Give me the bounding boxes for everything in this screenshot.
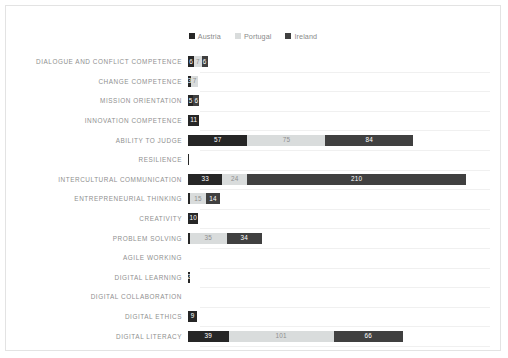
chart-frame: AustriaPortugalIreland DIALOGUE AND CONF… — [5, 5, 501, 351]
bar-value-label: 39 — [205, 333, 213, 339]
bar-segment-portugal[interactable]: 7 — [191, 76, 198, 87]
bar-value-label: 15 — [194, 196, 202, 202]
bar-cell: 3534 — [188, 228, 490, 248]
stacked-bar[interactable]: 3910166 — [188, 331, 490, 342]
bar-segment-austria[interactable] — [188, 154, 189, 165]
bar-cell: 577584 — [188, 130, 490, 150]
bar-cell — [188, 248, 490, 268]
stacked-bar[interactable]: 2 — [188, 272, 490, 283]
bar-segment-portugal[interactable]: 15 — [190, 193, 206, 204]
gridline — [200, 346, 490, 347]
category-label: DIGITAL LITERACY — [18, 333, 188, 340]
legend-item-austria[interactable]: Austria — [189, 32, 221, 41]
bar-cell: 10 — [188, 209, 490, 229]
bar-value-label: 9 — [191, 313, 195, 319]
chart-row: DIGITAL LITERACY3910166 — [18, 326, 490, 346]
bar-segment-ireland[interactable]: 6 — [202, 56, 208, 67]
stacked-bar[interactable]: 56 — [188, 95, 490, 106]
bar-cell — [188, 287, 490, 307]
category-label: DIGITAL ETHICS — [18, 313, 188, 320]
bar-value-label: 66 — [364, 333, 372, 339]
bar-cell: 3910166 — [188, 326, 490, 346]
bar-segment-austria[interactable]: 9 — [188, 311, 197, 322]
chart-row: INNOVATION COMPETENCE11 — [18, 111, 490, 131]
category-label: AGILE WORKING — [18, 254, 188, 261]
bar-segment-ireland[interactable]: 34 — [227, 233, 262, 244]
bar-value-label: 6 — [189, 59, 193, 65]
chart-row: DIGITAL ETHICS9 — [18, 307, 490, 327]
bar-value-label: 33 — [201, 176, 209, 182]
bar-segment-austria[interactable]: 33 — [188, 174, 222, 185]
stacked-bar[interactable]: 676 — [188, 56, 490, 67]
chart-rows: DIALOGUE AND CONFLICT COMPETENCE676CHANG… — [18, 52, 490, 346]
chart-row: RESILIENCE — [18, 150, 490, 170]
bar-cell: 1514 — [188, 189, 490, 209]
chart-row: MISSION ORIENTATION56 — [18, 91, 490, 111]
bar-cell — [188, 150, 490, 170]
bar-segment-ireland[interactable]: 210 — [247, 174, 466, 185]
bar-segment-portugal[interactable]: 35 — [190, 233, 226, 244]
bar-segment-ireland[interactable]: 6 — [193, 95, 199, 106]
bar-value-label: 210 — [351, 176, 362, 182]
bar-cell: 676 — [188, 52, 490, 72]
chart-row: ABILITY TO JUDGE577584 — [18, 130, 490, 150]
legend-swatch-icon — [189, 33, 195, 39]
bar-cell: 2 — [188, 268, 490, 288]
chart-row: DIALOGUE AND CONFLICT COMPETENCE676 — [18, 52, 490, 72]
stacked-bar[interactable] — [188, 154, 490, 165]
stacked-bar[interactable]: 577584 — [188, 135, 490, 146]
bar-value-label: 24 — [231, 176, 239, 182]
bar-segment-austria[interactable]: 2 — [188, 272, 190, 283]
chart-plot-area: DIALOGUE AND CONFLICT COMPETENCE676CHANG… — [18, 52, 490, 346]
bar-value-label: 35 — [205, 235, 213, 241]
category-label: CREATIVITY — [18, 215, 188, 222]
stacked-bar[interactable]: 1514 — [188, 193, 490, 204]
stacked-bar[interactable]: 3534 — [188, 233, 490, 244]
bar-segment-portugal[interactable]: 24 — [222, 174, 247, 185]
bar-value-label: 6 — [203, 59, 207, 65]
category-label: DIALOGUE AND CONFLICT COMPETENCE — [18, 58, 188, 65]
chart-row: ENTREPRENEURIAL THINKING1514 — [18, 189, 490, 209]
chart-row: AGILE WORKING — [18, 248, 490, 268]
category-label: DIGITAL LEARNING — [18, 274, 188, 281]
stacked-bar[interactable]: 10 — [188, 213, 490, 224]
bar-value-label: 14 — [209, 196, 217, 202]
bar-segment-portugal[interactable]: 101 — [229, 331, 334, 342]
bar-segment-austria[interactable]: 39 — [188, 331, 229, 342]
bar-cell: 3324210 — [188, 170, 490, 190]
stacked-bar[interactable] — [188, 291, 490, 302]
bar-value-label: 6 — [194, 98, 198, 104]
chart-row: DIGITAL LEARNING2 — [18, 268, 490, 288]
bar-segment-austria[interactable]: 11 — [188, 115, 199, 126]
legend-item-portugal[interactable]: Portugal — [235, 32, 272, 41]
stacked-bar[interactable]: 3324210 — [188, 174, 490, 185]
bar-segment-portugal[interactable]: 75 — [247, 135, 325, 146]
legend-item-label: Austria — [198, 32, 221, 41]
bar-segment-ireland[interactable]: 14 — [206, 193, 221, 204]
category-label: ENTREPRENEURIAL THINKING — [18, 195, 188, 202]
chart-row: INTERCULTURAL COMMUNICATION3324210 — [18, 170, 490, 190]
bar-value-label: 101 — [276, 333, 287, 339]
legend-swatch-icon — [235, 33, 241, 39]
bar-value-label: 11 — [190, 117, 197, 123]
stacked-bar[interactable]: 9 — [188, 311, 490, 322]
category-label: CHANGE COMPETENCE — [18, 78, 188, 85]
stacked-bar[interactable] — [188, 252, 490, 263]
stacked-bar[interactable]: 37 — [188, 76, 490, 87]
category-label: ABILITY TO JUDGE — [18, 137, 188, 144]
bar-value-label: 7 — [193, 78, 197, 84]
bar-segment-ireland[interactable]: 66 — [334, 331, 403, 342]
stacked-bar[interactable]: 11 — [188, 115, 490, 126]
bar-segment-portugal[interactable]: 7 — [194, 56, 201, 67]
bar-value-label: 75 — [283, 137, 291, 143]
chart-row: PROBLEM SOLVING3534 — [18, 228, 490, 248]
bar-value-label: 34 — [240, 235, 248, 241]
bar-segment-ireland[interactable]: 84 — [325, 135, 412, 146]
bar-cell: 56 — [188, 91, 490, 111]
bar-segment-austria[interactable]: 57 — [188, 135, 247, 146]
bar-segment-austria[interactable]: 10 — [188, 213, 198, 224]
legend-item-ireland[interactable]: Ireland — [285, 32, 317, 41]
bar-cell: 11 — [188, 111, 490, 131]
legend-item-label: Portugal — [244, 32, 272, 41]
bar-cell: 9 — [188, 307, 490, 327]
